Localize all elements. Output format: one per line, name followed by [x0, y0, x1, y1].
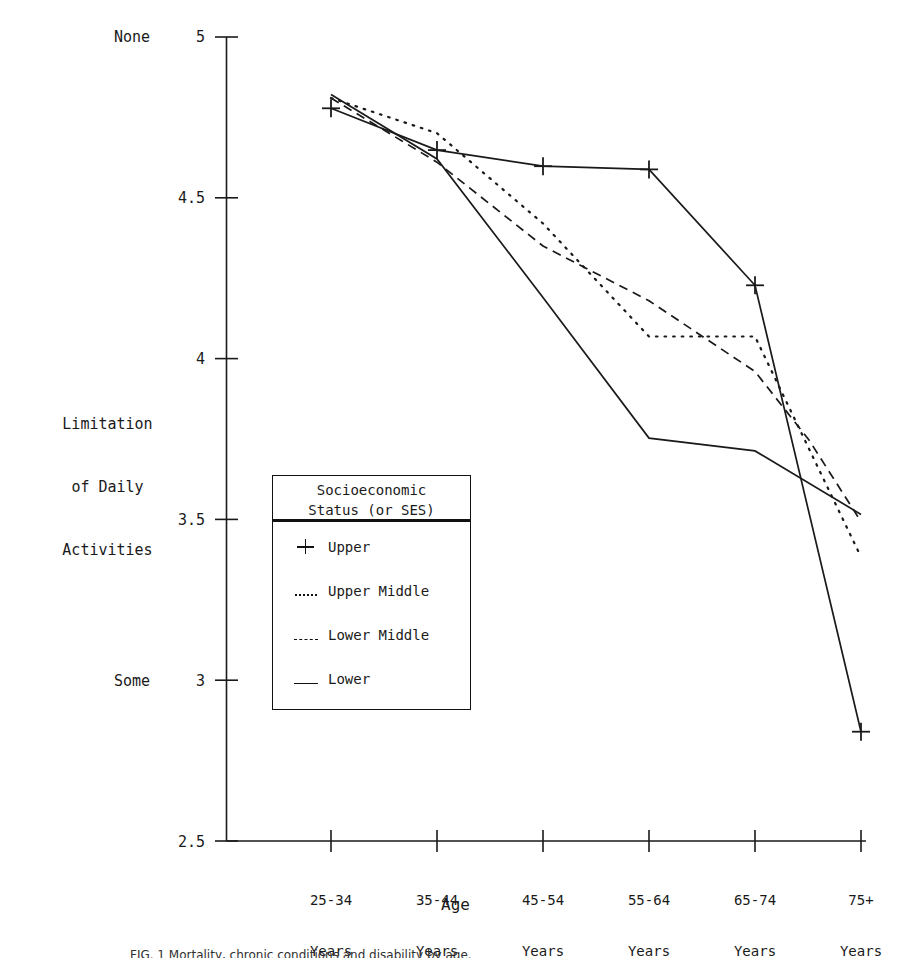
y-tick-label-4-5: 4.5	[160, 189, 205, 207]
series-lower-middle-line	[331, 98, 861, 522]
legend-title-line-1: Socioeconomic	[317, 482, 427, 498]
dotted-line-icon	[295, 586, 317, 596]
y-axis-title: Limitation of Daily Activities	[20, 372, 195, 603]
dashed-line-icon	[294, 631, 318, 640]
x-axis-title: Age	[0, 895, 911, 914]
figure-root: 5 4.5 4 3.5 3 2.5 None Some Limitation o…	[0, 0, 911, 958]
y-tick-label-5: 5	[160, 28, 205, 46]
y-tick-label-3: 3	[160, 672, 205, 690]
y-axis-title-line-3: Activities	[20, 540, 195, 561]
legend-title: Socioeconomic Status (or SES)	[273, 476, 470, 522]
legend-label-lower: Lower	[328, 671, 370, 687]
y-anchor-none-label: None	[75, 28, 150, 46]
plus-marker-icon	[291, 539, 321, 555]
figure-caption: FIG. 1 Mortality, chronic conditions and…	[130, 948, 830, 958]
y-tick-label-2-5: 2.5	[160, 833, 205, 851]
legend-item-lower-middle[interactable]: Lower Middle	[291, 624, 429, 646]
y-tick-label-4: 4	[160, 350, 205, 368]
legend-label-lower-middle: Lower Middle	[328, 627, 429, 643]
y-axis-title-line-2: of Daily	[20, 477, 195, 498]
solid-line-icon	[294, 675, 318, 684]
legend-label-upper-middle: Upper Middle	[328, 583, 429, 599]
legend-label-upper: Upper	[328, 539, 370, 555]
legend-item-lower[interactable]: Lower	[291, 668, 370, 690]
series-lower-line	[331, 95, 861, 515]
legend-item-upper-middle[interactable]: Upper Middle	[291, 580, 429, 602]
y-axis-title-line-1: Limitation	[20, 414, 195, 435]
legend-item-upper[interactable]: Upper	[291, 536, 370, 558]
legend-items: Upper Upper Middle Lower Middle Lower	[273, 524, 470, 709]
legend-title-line-2: Status (or SES)	[308, 502, 434, 518]
chart-legend: Socioeconomic Status (or SES) Upper Uppe…	[272, 475, 471, 710]
y-anchor-some-label: Some	[75, 672, 150, 690]
